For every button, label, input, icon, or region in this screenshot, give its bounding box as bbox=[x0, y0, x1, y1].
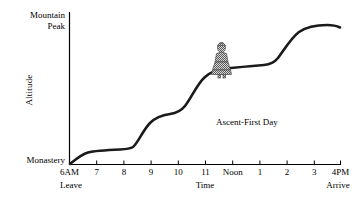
x-sub-label-arrive: Arrive bbox=[313, 180, 362, 190]
chart-annotation: Ascent-First Day bbox=[216, 117, 278, 127]
x-sub-label-leave: Leave bbox=[46, 180, 96, 190]
chart-axes bbox=[69, 12, 341, 165]
hiker-leg-right bbox=[223, 75, 226, 79]
y-axis-top-label: Mountain Peak bbox=[8, 10, 65, 31]
hiker-hem bbox=[212, 70, 232, 75]
hiker-leg-left bbox=[218, 75, 221, 79]
y-axis-top-label-line1: Mountain bbox=[30, 10, 65, 20]
y-axis-bottom-label: Monastery bbox=[4, 155, 65, 165]
ascent-chart-figure: Mountain Peak Monastery Altitude 6AM 7 8… bbox=[0, 0, 362, 204]
y-axis-top-label-line2: Peak bbox=[48, 21, 66, 31]
hiker-torso bbox=[215, 52, 228, 62]
hiker-figure bbox=[212, 43, 232, 79]
x-axis-title: Time bbox=[180, 180, 230, 190]
y-axis-title: Altitude bbox=[24, 55, 34, 125]
hiker-robe bbox=[213, 62, 231, 70]
ascent-curve-line bbox=[70, 25, 340, 164]
x-tick-label-4pm: 4PM bbox=[321, 167, 361, 177]
